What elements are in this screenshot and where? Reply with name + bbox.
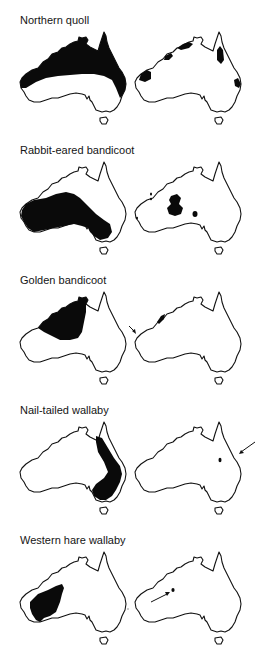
australia-map bbox=[131, 412, 243, 516]
map-former-range bbox=[16, 282, 128, 386]
australia-map bbox=[16, 282, 128, 386]
australia-map bbox=[16, 22, 128, 126]
scan-speck bbox=[127, 608, 129, 610]
map-former-range bbox=[16, 412, 128, 516]
panel-northern-quoll: Northern quoll bbox=[0, 0, 271, 130]
map-former-range bbox=[16, 22, 128, 126]
map-current-range bbox=[131, 282, 243, 386]
arrow-pointer bbox=[241, 442, 255, 452]
australia-map bbox=[131, 22, 243, 126]
panel-nail-tailed-wallaby: Nail-tailed wallaby bbox=[0, 390, 271, 520]
australia-map bbox=[131, 542, 243, 646]
map-current-range bbox=[131, 152, 243, 256]
map-current-range bbox=[131, 542, 243, 646]
australia-map bbox=[16, 412, 128, 516]
australia-map bbox=[16, 542, 128, 646]
panel-golden-bandicoot: Golden bandicoot bbox=[0, 260, 271, 390]
australia-map bbox=[131, 152, 243, 256]
australia-map bbox=[16, 152, 128, 256]
map-former-range bbox=[16, 542, 128, 646]
panel-western-hare-wallaby: Western hare wallaby bbox=[0, 520, 271, 649]
australia-map bbox=[131, 282, 243, 386]
panel-rabbit-eared-bandicoot: Rabbit-eared bandicoot bbox=[0, 130, 271, 260]
map-current-range bbox=[131, 22, 243, 126]
map-former-range bbox=[16, 152, 128, 256]
map-current-range bbox=[131, 412, 243, 516]
